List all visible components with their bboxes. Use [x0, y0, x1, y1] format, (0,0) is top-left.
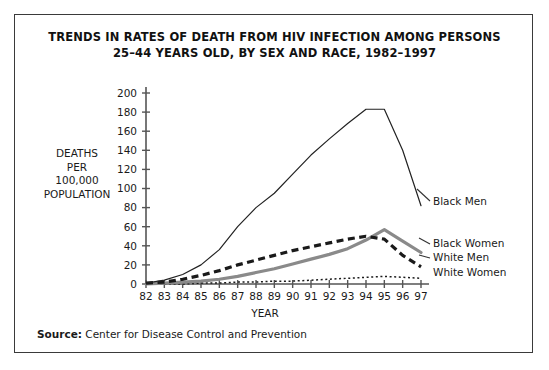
x-axis-tick-label: 97: [414, 290, 427, 302]
series-label-white-men: White Men: [433, 251, 489, 263]
x-axis-tick-label: 96: [396, 290, 410, 302]
x-axis-tick-label: 85: [194, 290, 207, 302]
series-line-black-men: [146, 109, 421, 283]
x-axis-tick-label: 89: [268, 290, 281, 302]
y-axis-tick-label: 40: [124, 240, 137, 252]
source-text: Center for Disease Control and Preventio…: [82, 328, 307, 340]
y-axis-tick-label: 20: [124, 259, 137, 271]
y-axis-tick-label: 0: [130, 278, 137, 290]
y-axis-tick-label: 60: [124, 221, 137, 233]
source-prefix: Source:: [37, 328, 82, 340]
x-axis-tick-label: 83: [158, 290, 171, 302]
y-axis-tick-label: 160: [117, 125, 137, 137]
x-axis-tick-label: 90: [286, 290, 299, 302]
plot-area: 0204060801001201401601802008283848586878…: [15, 15, 534, 354]
x-axis-tick-label: 95: [378, 290, 391, 302]
x-axis-tick-label: 91: [304, 290, 317, 302]
line-chart: 0204060801001201401601802008283848586878…: [15, 15, 534, 354]
y-axis-tick-label: 200: [117, 87, 137, 99]
x-axis-tick-label: 92: [323, 290, 336, 302]
series-line-white-men: [146, 236, 421, 283]
x-axis-tick-label: 88: [249, 290, 262, 302]
y-axis-tick-label: 80: [124, 201, 137, 213]
series-label-black-men: Black Men: [433, 195, 487, 207]
x-axis-title: YEAR: [127, 307, 403, 319]
x-axis-tick-label: 84: [176, 290, 190, 302]
series-line-black-women: [146, 230, 421, 284]
chart-frame: TRENDS IN RATES OF DEATH FROM HIV INFECT…: [14, 14, 533, 353]
source-note: Source: Center for Disease Control and P…: [37, 328, 307, 340]
series-label-black-women: Black Women: [433, 237, 504, 249]
y-axis-tick-label: 120: [117, 163, 137, 175]
y-axis-tick-label: 140: [117, 144, 137, 156]
x-axis-tick-label: 86: [213, 290, 227, 302]
x-axis-tick-label: 87: [231, 290, 244, 302]
x-axis-tick-label: 82: [139, 290, 152, 302]
y-axis-tick-label: 180: [117, 106, 137, 118]
x-axis-tick-label: 93: [341, 290, 354, 302]
series-label-white-women: White Women: [433, 266, 506, 278]
x-axis-tick-label: 94: [359, 290, 373, 302]
y-axis-tick-label: 100: [117, 182, 137, 194]
